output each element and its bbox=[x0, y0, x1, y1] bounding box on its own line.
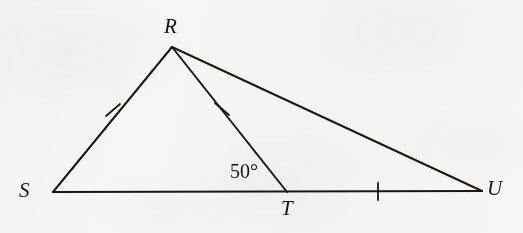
segment-r-u bbox=[172, 47, 482, 191]
vertex-label-u: U bbox=[487, 178, 502, 199]
vertex-label-r: R bbox=[164, 16, 177, 37]
segments-group bbox=[53, 47, 482, 192]
segment-s-r bbox=[53, 47, 172, 192]
vertex-label-s: S bbox=[19, 180, 30, 201]
geometry-figure bbox=[0, 0, 523, 233]
segment-s-u bbox=[53, 191, 482, 192]
angle-label-rts: 50° bbox=[230, 161, 258, 181]
vertex-label-t: T bbox=[281, 198, 293, 219]
diagram-canvas: R S T U 50° bbox=[0, 0, 523, 233]
tick-mark-segment-r-t bbox=[215, 103, 229, 115]
tick-marks-group bbox=[106, 103, 378, 200]
